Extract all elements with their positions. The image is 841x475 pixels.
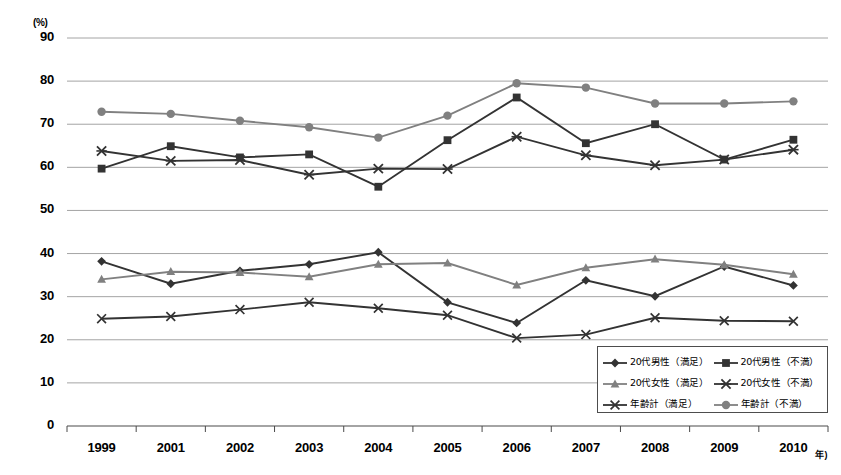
y-axis-tick-label: 20 (20, 331, 54, 346)
chart-container: (%) 0102030405060708090 1999200120022003… (0, 0, 841, 475)
legend-item-1[interactable]: 20代男性（不満） (713, 354, 824, 368)
legend-diamond-icon (602, 355, 628, 367)
legend-label: 20代女性（不満） (741, 375, 820, 389)
legend-dash-icon (602, 397, 628, 409)
x-axis-tick-label: 2002 (210, 440, 270, 455)
y-axis-tick-label: 90 (20, 29, 54, 44)
legend-item-5[interactable]: 年齢計（不満） (713, 396, 824, 410)
legend-label: 20代男性（不満） (741, 354, 820, 368)
legend-row: 年齢計（満足） 年齢計（不満） (602, 392, 823, 413)
y-axis-tick-label: 60 (20, 158, 54, 173)
x-axis-tick-label: 1999 (72, 440, 132, 455)
chart-legend: 20代男性（満足） 20代男性（不満） 20代女性（満足） 20代女性（不満） … (597, 346, 828, 413)
legend-triangle-icon (602, 376, 628, 388)
legend-label: 年齢計（満足） (630, 396, 697, 410)
x-axis-tick-label: 2010 (763, 440, 823, 455)
legend-cross-icon (713, 376, 739, 388)
legend-item-0[interactable]: 20代男性（満足） (602, 354, 713, 368)
y-axis-tick-label: 40 (20, 245, 54, 260)
legend-item-3[interactable]: 20代女性（不満） (713, 375, 824, 389)
y-axis-tick-label: 30 (20, 288, 54, 303)
y-axis-tick-label: 10 (20, 374, 54, 389)
legend-label: 年齢計（不満） (741, 396, 808, 410)
x-axis-unit-label: 年) (815, 448, 827, 461)
y-axis-tick-label: 70 (20, 115, 54, 130)
legend-label: 20代女性（満足） (630, 375, 709, 389)
legend-circle-icon (713, 397, 739, 409)
x-axis-tick-label: 2004 (348, 440, 408, 455)
legend-square-icon (713, 355, 739, 367)
legend-label: 20代男性（満足） (630, 354, 709, 368)
x-axis-tick-label: 2005 (418, 440, 478, 455)
y-axis-tick-label: 50 (20, 201, 54, 216)
x-axis-tick-label: 2008 (625, 440, 685, 455)
x-axis-tick-label: 2006 (487, 440, 547, 455)
y-axis-tick-label: 80 (20, 72, 54, 87)
x-axis-tick-label: 2007 (556, 440, 616, 455)
y-axis-tick-label: 0 (20, 417, 54, 432)
x-axis-tick-label: 2009 (694, 440, 754, 455)
legend-item-2[interactable]: 20代女性（満足） (602, 375, 713, 389)
legend-row: 20代女性（満足） 20代女性（不満） (602, 371, 823, 392)
legend-item-4[interactable]: 年齢計（満足） (602, 396, 713, 410)
legend-row: 20代男性（満足） 20代男性（不満） (602, 350, 823, 371)
x-axis-tick-label: 2001 (141, 440, 201, 455)
x-axis-tick-label: 2003 (279, 440, 339, 455)
